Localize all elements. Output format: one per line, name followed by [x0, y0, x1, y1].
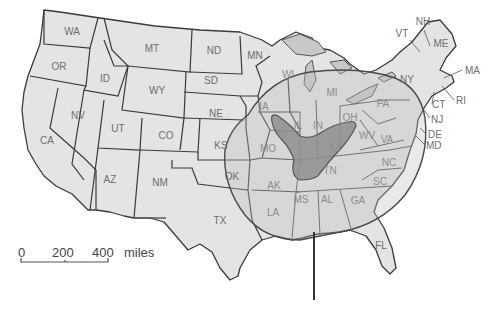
state-label-la: LA — [267, 207, 280, 218]
state-label-nc: NC — [382, 157, 396, 168]
scale-tick-400: 400 — [92, 245, 114, 260]
state-label-va: VA — [381, 134, 394, 145]
state-label-mt: MT — [145, 43, 159, 54]
state-label-de: DE — [428, 129, 442, 140]
state-label-in: IN — [313, 120, 323, 131]
state-label-mn: MN — [247, 50, 263, 61]
state-label-il: IL — [294, 120, 303, 131]
state-label-ak: AK — [267, 180, 281, 191]
state-label-mo: MO — [260, 143, 276, 154]
state-label-nh: NH — [416, 16, 430, 27]
scale-unit: miles — [124, 245, 155, 260]
state-label-vt: VT — [396, 28, 409, 39]
us-map: WA OR ID MT WY ND SD NE MN NV UT CO CA A… — [0, 0, 499, 309]
state-label-me: ME — [434, 38, 449, 49]
state-label-az: AZ — [104, 174, 117, 185]
state-label-id: ID — [100, 73, 110, 84]
state-label-ct: CT — [432, 99, 445, 110]
state-label-ri: RI — [456, 95, 466, 106]
state-label-sd: SD — [204, 75, 218, 86]
state-label-nv: NV — [71, 110, 85, 121]
state-label-ks: KS — [214, 140, 228, 151]
state-label-al: AL — [321, 194, 334, 205]
state-label-ky: KY — [329, 142, 343, 153]
state-label-wy: WY — [149, 85, 165, 96]
scale-tick-0: 0 — [18, 245, 25, 260]
state-label-or: OR — [52, 61, 67, 72]
state-label-wa: WA — [64, 26, 80, 37]
state-label-ia: IA — [259, 101, 269, 112]
state-label-nd: ND — [207, 45, 221, 56]
state-label-ok: OK — [225, 171, 240, 182]
state-label-tn: TN — [323, 165, 336, 176]
state-label-ut: UT — [111, 123, 124, 134]
state-label-ga: GA — [351, 195, 366, 206]
state-label-co: CO — [159, 130, 174, 141]
state-label-sc: SC — [373, 176, 387, 187]
state-label-wv: WV — [359, 130, 375, 141]
state-label-ca: CA — [40, 135, 54, 146]
state-label-ms: MS — [294, 194, 309, 205]
state-label-oh: OH — [343, 112, 358, 123]
state-label-tx: TX — [214, 215, 227, 226]
scale-tick-200: 200 — [52, 245, 74, 260]
state-label-nm: NM — [152, 177, 168, 188]
state-label-ne: NE — [209, 108, 223, 119]
state-label-mi: MI — [326, 87, 337, 98]
state-label-ny: NY — [400, 74, 414, 85]
state-label-nj: NJ — [431, 114, 443, 125]
state-label-wi: WI — [282, 69, 294, 80]
state-label-fl: FL — [375, 240, 387, 251]
state-label-ma: MA — [465, 65, 480, 76]
scale-bar: 0 200 400 miles — [18, 245, 155, 262]
state-label-pa: PA — [377, 98, 390, 109]
state-label-md: MD — [426, 140, 442, 151]
